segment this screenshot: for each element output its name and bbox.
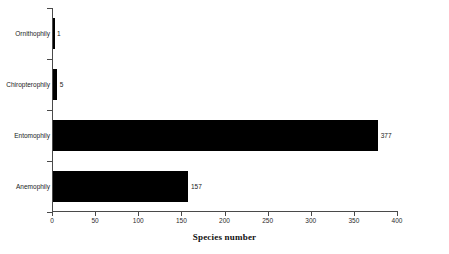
x-axis-tick xyxy=(268,212,269,216)
x-axis-tick-label: 250 xyxy=(262,217,273,224)
bar-value-label: 1 xyxy=(57,30,61,37)
bar xyxy=(53,18,55,50)
x-axis-tick xyxy=(138,212,139,216)
y-axis-tick xyxy=(47,110,53,111)
x-axis-tick-label: 400 xyxy=(392,217,403,224)
bar xyxy=(53,69,57,101)
x-axis-tick-label: 200 xyxy=(219,217,230,224)
y-axis-tick xyxy=(47,161,53,162)
x-axis-tick xyxy=(354,212,355,216)
bar xyxy=(53,120,378,152)
x-axis-tick-label: 300 xyxy=(305,217,316,224)
x-axis-tick xyxy=(181,212,182,216)
x-axis-tick-label: 150 xyxy=(176,217,187,224)
x-axis-tick-label: 350 xyxy=(348,217,359,224)
bar-value-label: 377 xyxy=(381,132,392,139)
x-axis-tick xyxy=(225,212,226,216)
bar-value-label: 157 xyxy=(191,183,202,190)
x-axis-tick-label: 100 xyxy=(133,217,144,224)
y-axis-tick xyxy=(47,59,53,60)
category-label: Entomophily xyxy=(14,132,50,139)
x-axis-tick-label: 50 xyxy=(92,217,99,224)
x-axis-tick xyxy=(52,212,53,216)
bar xyxy=(53,171,188,203)
species-number-bar-chart: 050100150200250300350400 OrnithophilyChi… xyxy=(0,0,449,254)
x-axis-tick-label: 0 xyxy=(50,217,54,224)
x-axis-tick xyxy=(397,212,398,216)
bar-value-label: 5 xyxy=(60,81,64,88)
x-axis-tick xyxy=(95,212,96,216)
category-label: Ornithophily xyxy=(15,30,50,37)
x-axis-title: Species number xyxy=(0,232,449,242)
category-label: Chiropterophily xyxy=(6,81,50,88)
x-axis-tick xyxy=(311,212,312,216)
y-axis-tick xyxy=(47,8,53,9)
category-label: Anemophily xyxy=(16,183,50,190)
